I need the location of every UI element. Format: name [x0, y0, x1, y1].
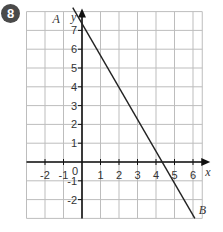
svg-text:y: y	[70, 10, 77, 24]
svg-text:4: 4	[71, 81, 77, 93]
grid	[27, 12, 203, 219]
svg-text:2: 2	[71, 118, 77, 130]
svg-text:1: 1	[71, 137, 77, 149]
svg-text:-2: -2	[40, 169, 50, 181]
svg-text:-2: -2	[67, 194, 77, 206]
series-line-ab	[73, 8, 195, 219]
svg-text:7: 7	[71, 24, 77, 36]
svg-text:A: A	[51, 12, 60, 26]
svg-text:5: 5	[71, 62, 77, 74]
svg-text:2: 2	[116, 169, 122, 181]
svg-text:1: 1	[97, 169, 103, 181]
svg-text:3: 3	[134, 169, 140, 181]
svg-text:-1: -1	[67, 175, 77, 187]
axes	[27, 9, 211, 219]
svg-text:6: 6	[71, 43, 77, 55]
svg-text:6: 6	[190, 169, 196, 181]
tick-labels: -2-101234567654321-1-2xy	[40, 10, 211, 206]
svg-text:3: 3	[71, 100, 77, 112]
svg-text:4: 4	[153, 169, 159, 181]
svg-text:x: x	[204, 165, 211, 179]
line-graph: -2-101234567654321-1-2xy AB	[0, 0, 223, 232]
svg-text:B: B	[199, 203, 207, 217]
